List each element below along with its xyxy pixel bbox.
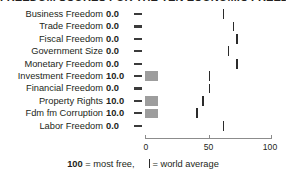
row-label: Fiscal Freedom — [39, 33, 103, 45]
row-value: 10.0 — [106, 107, 132, 119]
chart-row: Investment Freedom 10.0 — [0, 70, 286, 82]
axis-tick-50 — [209, 135, 210, 138]
economic-freedom-chart: FREEDOM SCORES FOR THE TEN ECONOMIC FREE… — [0, 0, 286, 176]
world-average-tick — [236, 34, 238, 44]
chart-row: Business Freedom 0.0 — [0, 8, 286, 20]
row-label: Labor Freedom — [39, 120, 103, 132]
chart-row: Property Rights 10.0 — [0, 95, 286, 107]
score-bar — [145, 109, 158, 118]
world-average-tick — [233, 22, 235, 32]
row-label: Government Size — [31, 45, 103, 57]
row-dash-icon — [134, 13, 142, 15]
row-dash-icon — [134, 63, 142, 65]
row-value: 0.0 — [106, 8, 132, 20]
row-dash-icon — [134, 100, 142, 102]
row-label: Fdm fm Corruption — [26, 107, 104, 119]
row-dash-icon — [134, 38, 142, 40]
legend-average-text: = world average — [152, 159, 218, 169]
row-value: 0.0 — [106, 45, 132, 57]
x-axis — [145, 138, 272, 139]
row-value: 0.0 — [106, 58, 132, 70]
chart-row: Fiscal Freedom 0.0 — [0, 33, 286, 45]
row-dash-icon — [134, 50, 142, 52]
row-label: Business Freedom — [25, 8, 103, 20]
row-value: 0.0 — [106, 33, 132, 45]
row-label: Financial Freedom — [26, 82, 103, 94]
row-label: Property Rights — [39, 95, 103, 107]
row-dash-icon — [134, 87, 142, 89]
world-average-tick — [202, 96, 204, 106]
row-label: Investment Freedom — [18, 70, 103, 82]
row-dash-icon — [134, 112, 142, 114]
world-average-tick — [209, 71, 211, 81]
legend-max-value: 100 — [67, 159, 83, 169]
row-value: 0.0 — [106, 20, 132, 32]
chart-rows: Business Freedom 0.0 Trade Freedom 0.0 F… — [0, 8, 286, 132]
legend-max-text: = most free, — [85, 159, 134, 169]
chart-row: Labor Freedom 0.0 — [0, 120, 286, 132]
axis-label-50: 50 — [204, 142, 214, 152]
row-dash-icon — [134, 75, 142, 77]
chart-row: Government Size 0.0 — [0, 45, 286, 57]
score-bar — [145, 96, 158, 105]
row-dash-icon — [134, 25, 142, 27]
chart-legend: 100 = most free,= world average — [0, 158, 286, 170]
row-label: Trade Freedom — [39, 20, 103, 32]
chart-row: Financial Freedom 0.0 — [0, 82, 286, 94]
world-average-tick-icon — [149, 159, 151, 168]
row-value: 10.0 — [106, 95, 132, 107]
row-value: 0.0 — [106, 82, 132, 94]
axis-label-100: 100 — [263, 142, 277, 152]
chart-title: FREEDOM SCORES FOR THE TEN ECONOMIC FREE… — [0, 0, 286, 2]
row-label: Monetary Freedom — [24, 58, 103, 70]
row-value: 0.0 — [106, 120, 132, 132]
world-average-tick — [196, 108, 198, 118]
row-value: 10.0 — [106, 70, 132, 82]
world-average-tick — [223, 121, 225, 131]
world-average-tick — [209, 84, 211, 94]
axis-tick-100 — [271, 135, 272, 138]
axis-label-0: 0 — [144, 142, 149, 152]
axis-tick-0 — [145, 135, 146, 138]
score-bar — [145, 71, 158, 80]
world-average-tick — [223, 9, 225, 19]
chart-row: Trade Freedom 0.0 — [0, 20, 286, 32]
row-dash-icon — [134, 125, 142, 127]
chart-row: Monetary Freedom 0.0 — [0, 58, 286, 70]
world-average-tick — [228, 46, 230, 56]
chart-row: Fdm fm Corruption 10.0 — [0, 107, 286, 119]
world-average-tick — [236, 59, 238, 69]
